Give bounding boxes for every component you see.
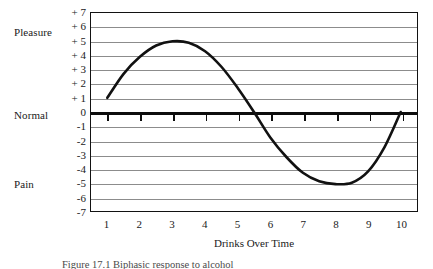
x-tick-label: 10: [396, 218, 407, 230]
x-tick-label: 5: [235, 218, 241, 230]
axis-region-label-pleasure: Pleasure: [14, 27, 52, 38]
x-axis-title: Drinks Over Time: [90, 237, 418, 249]
x-tick-label: 1: [104, 218, 110, 230]
x-axis-tick: [140, 115, 142, 121]
y-tick-label: + 1: [56, 93, 86, 104]
axis-region-label-pain: Pain: [14, 179, 34, 190]
x-axis-tick: [173, 115, 175, 121]
y-axis-tick-labels: + 7+ 6+ 5+ 4+ 3+ 2+ 10-1-2-3-4-5-6-7: [56, 6, 86, 218]
y-tick-label: + 6: [56, 21, 86, 32]
figure-pleasure-pain-curve: Pleasure Normal Pain + 7+ 6+ 5+ 4+ 3+ 2+…: [0, 0, 433, 269]
y-tick-label: 0: [56, 107, 86, 118]
x-axis-tick: [304, 115, 306, 121]
y-tick-label: + 3: [56, 64, 86, 75]
curve-series: [91, 13, 417, 211]
y-tick-label: + 2: [56, 78, 86, 89]
x-tick-label: 3: [169, 218, 175, 230]
y-tick-label: -7: [56, 207, 86, 218]
y-tick-label: -6: [56, 193, 86, 204]
x-tick-label: 7: [300, 218, 306, 230]
x-axis-tick-labels: 12345678910: [90, 218, 418, 232]
plot-area: [90, 12, 418, 212]
y-tick-label: -2: [56, 136, 86, 147]
x-axis-tick: [370, 115, 372, 121]
y-tick-label: -1: [56, 121, 86, 132]
pleasure-pain-line: [107, 41, 400, 184]
x-axis-tick: [206, 115, 208, 121]
x-axis-tick: [239, 115, 241, 121]
x-axis-tick: [337, 115, 339, 121]
x-tick-label: 2: [136, 218, 142, 230]
axis-region-label-normal: Normal: [14, 110, 48, 121]
y-tick-label: + 5: [56, 36, 86, 47]
y-tick-label: + 7: [56, 7, 86, 18]
x-axis-tick: [403, 115, 405, 121]
x-axis-tick: [107, 115, 109, 121]
y-tick-label: -4: [56, 164, 86, 175]
y-tick-label: -3: [56, 150, 86, 161]
x-axis-tick: [271, 115, 273, 121]
x-tick-label: 4: [202, 218, 208, 230]
x-tick-label: 8: [333, 218, 339, 230]
y-tick-label: -5: [56, 178, 86, 189]
y-tick-label: + 4: [56, 50, 86, 61]
x-tick-label: 6: [268, 218, 274, 230]
x-tick-label: 9: [366, 218, 372, 230]
figure-caption: Figure 17.1 Biphasic response to alcohol: [62, 259, 422, 269]
